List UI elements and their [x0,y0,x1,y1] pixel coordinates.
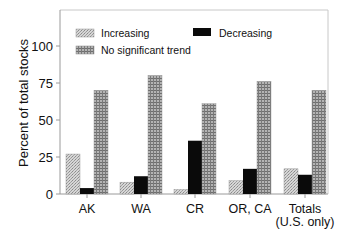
bar-decreasing [188,141,202,194]
bar-decreasing [298,175,312,194]
bar-increasing [229,181,243,194]
y-tick-label: 100 [31,39,53,54]
y-tick-label: 75 [39,76,53,91]
bar-increasing [284,169,298,194]
x-category-label: AK [79,202,96,216]
increasing-swatch-icon [76,29,94,37]
bar-decreasing [243,169,257,194]
bar-no-trend [257,82,271,194]
legend-label-no-trend: No significant trend [101,44,191,56]
bar-chart: 0255075100 AKWACROR, CATotals(U.S. only)… [0,0,348,237]
x-category-label: WA [131,202,151,216]
bar-increasing [174,190,188,194]
x-category-label: (U.S. only) [275,215,334,229]
bar-no-trend [202,104,216,194]
legend-label-decreasing: Decreasing [219,27,272,39]
legend-item-increasing: Increasing [76,27,150,39]
bars [66,76,326,194]
x-category-label: Totals [289,202,322,216]
legend: Increasing Decreasing No significant tre… [76,27,272,56]
x-category-label: CR [186,202,204,216]
y-tick-label: 0 [46,187,53,202]
y-axis-label: Percent of total stocks [16,39,31,167]
decreasing-swatch-icon [193,28,211,36]
y-tick-label: 25 [39,150,53,165]
bar-no-trend [312,90,326,194]
x-axis: AKWACROR, CATotals(U.S. only) [79,194,335,229]
no-trend-swatch-icon [76,46,94,54]
y-axis: 0255075100 [31,39,60,202]
bar-no-trend [148,76,162,194]
legend-item-no-trend: No significant trend [76,44,191,56]
bar-increasing [66,154,80,194]
bar-decreasing [134,176,148,194]
legend-label-increasing: Increasing [101,27,150,39]
bar-increasing [120,182,134,194]
x-category-label: OR, CA [228,202,272,216]
legend-item-decreasing: Decreasing [193,27,272,39]
bar-no-trend [94,90,108,194]
bar-decreasing [80,188,94,194]
y-tick-label: 50 [39,113,53,128]
